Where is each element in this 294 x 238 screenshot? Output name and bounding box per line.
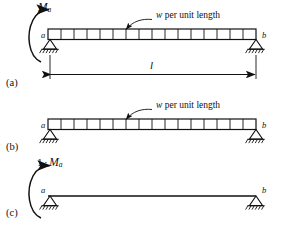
moment-label-c: 1·Ma [37, 157, 63, 169]
support-left-a [40, 40, 59, 54]
load-leader-arrow-b [126, 109, 152, 119]
load-leader-arrow-a [126, 19, 152, 29]
node-label-a-right: b [262, 31, 266, 40]
panel-tag-c: (c) [6, 208, 18, 219]
panel-c [29, 166, 265, 219]
distributed-load-band-a [48, 29, 256, 40]
node-label-a-left: a [41, 31, 45, 40]
load-label-b: w per unit length [156, 101, 220, 111]
moment-arrow-c [29, 166, 50, 219]
node-label-c-left: a [41, 186, 45, 195]
panel-a [29, 10, 265, 80]
panel-tag-b: (b) [6, 142, 18, 153]
span-label-a: l [150, 60, 153, 71]
node-label-b-left: a [41, 121, 45, 130]
support-right-b [246, 130, 265, 144]
distributed-load-band-b [48, 119, 256, 130]
support-left-c [40, 196, 59, 210]
load-label-a: w per unit length [156, 11, 220, 21]
support-left-b [40, 130, 59, 144]
moment-label-a: Ma [38, 2, 51, 14]
moment-arrow-a [29, 10, 49, 63]
node-label-c-right: b [262, 186, 266, 195]
panel-tag-a: (a) [6, 78, 18, 89]
node-label-b-right: b [262, 121, 266, 130]
support-right-c [246, 196, 265, 210]
panel-b [40, 109, 265, 143]
support-right-a [246, 40, 265, 54]
